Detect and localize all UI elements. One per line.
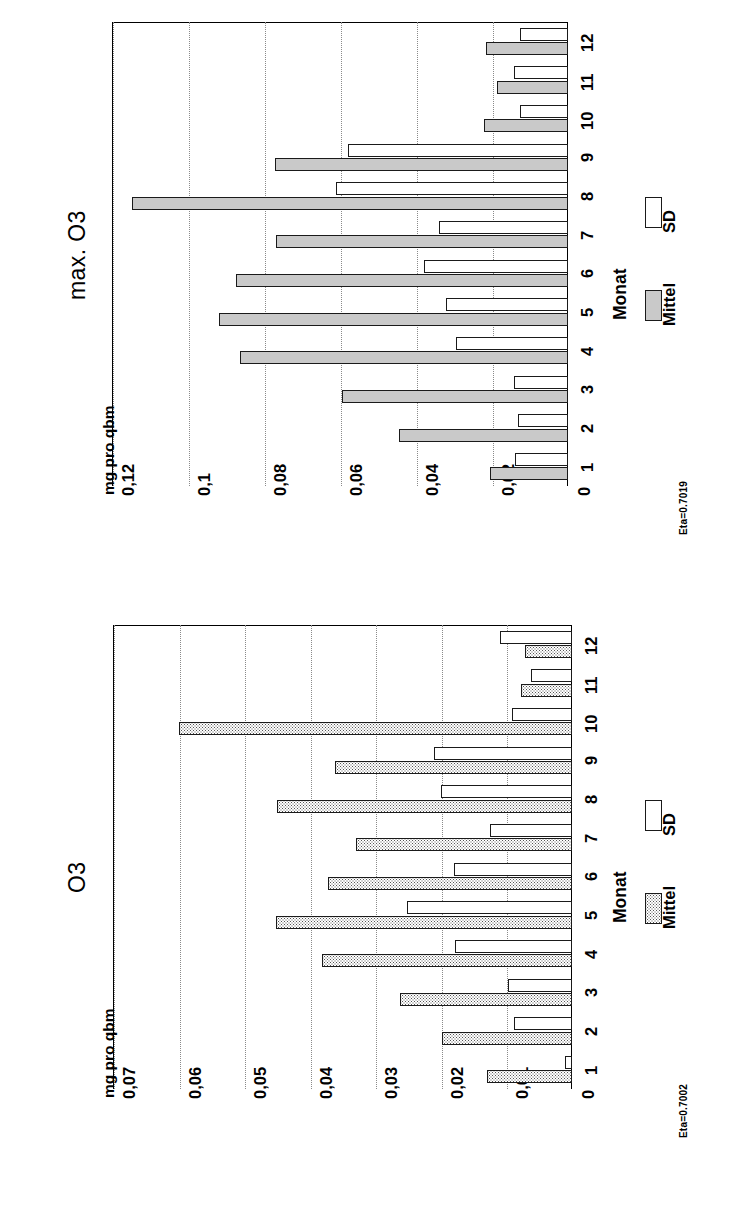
bar-mittel xyxy=(236,274,569,287)
value-axis-tick-label: 0,12 xyxy=(119,464,138,496)
legend-label-sd: SD xyxy=(660,210,679,233)
category-tick-label: 11 xyxy=(578,74,597,91)
bar-sd xyxy=(512,708,572,721)
bar-sd xyxy=(500,631,572,644)
value-axis-tick-label: 0,04 xyxy=(317,1067,336,1099)
gridline xyxy=(311,625,312,1089)
bar-mittel xyxy=(179,722,572,735)
value-axis-tick-label: 0,02 xyxy=(448,1067,467,1099)
bar-sd xyxy=(515,453,568,466)
value-axis-tick-label: 0,03 xyxy=(382,1067,401,1099)
bar-mittel xyxy=(328,877,572,890)
bar-sd xyxy=(439,221,568,234)
bar-mittel xyxy=(240,351,568,364)
bar-mittel xyxy=(442,1032,572,1045)
value-axis-tick-label: 0,06 xyxy=(186,1067,205,1099)
gridline xyxy=(417,22,418,486)
bar-sd xyxy=(531,669,572,682)
eta-value-max-o3: Eta=0.7019 xyxy=(678,481,689,535)
bar-mittel xyxy=(342,390,568,403)
bar-mittel xyxy=(276,235,568,248)
chart-title-max-o3: max. O3 xyxy=(64,210,91,300)
gridline xyxy=(189,22,190,486)
bar-mittel xyxy=(525,645,572,658)
category-tick-label: 8 xyxy=(582,795,601,804)
category-tick-label: 9 xyxy=(582,756,601,765)
gridline xyxy=(180,625,181,1089)
bar-sd xyxy=(348,144,568,157)
category-tick-label: 10 xyxy=(578,111,597,129)
category-tick-label: 12 xyxy=(582,637,601,655)
gridline xyxy=(265,22,266,486)
bar-mittel xyxy=(219,313,568,326)
category-tick-label: 11 xyxy=(582,677,601,694)
bar-sd xyxy=(565,1056,572,1069)
chart-panel-max-o3: max. O3 mg pro qbm Monat Eta=0.7019 0,12… xyxy=(0,0,741,602)
value-axis-tick-label: 0,08 xyxy=(271,464,290,496)
category-tick-label: 5 xyxy=(582,911,601,920)
bar-sd xyxy=(446,298,568,311)
bar-sd xyxy=(434,747,572,760)
bar-mittel xyxy=(490,467,568,480)
bar-sd xyxy=(508,979,572,992)
category-tick-label: 2 xyxy=(582,1027,601,1036)
bar-sd xyxy=(336,182,568,195)
bar-sd xyxy=(520,105,568,118)
bar-mittel xyxy=(399,429,568,442)
bar-sd xyxy=(407,901,572,914)
gridline xyxy=(245,625,246,1089)
bar-mittel xyxy=(484,119,568,132)
value-axis-unit-max-o3: mg pro qbm xyxy=(100,405,118,495)
category-tick-label: 9 xyxy=(578,153,597,162)
category-tick-label: 7 xyxy=(578,230,597,239)
value-axis-tick-label: 0 xyxy=(579,1090,598,1099)
category-axis-label-o3: Monat xyxy=(610,871,631,923)
bar-sd xyxy=(514,66,568,79)
bar-sd xyxy=(456,337,568,350)
category-tick-label: 7 xyxy=(582,833,601,842)
category-tick-label: 10 xyxy=(582,714,601,732)
bar-mittel xyxy=(322,954,572,967)
legend-label-sd: SD xyxy=(660,813,679,836)
bar-sd xyxy=(520,28,568,41)
value-axis-tick-label: 0 xyxy=(575,487,594,496)
bar-mittel xyxy=(276,916,572,929)
bar-mittel xyxy=(356,838,572,851)
eta-value-o3: Eta=0.7002 xyxy=(678,1084,689,1138)
value-axis-unit-o3: mg pro qbm xyxy=(100,1008,118,1098)
category-tick-label: 8 xyxy=(578,192,597,201)
category-tick-label: 2 xyxy=(578,424,597,433)
bar-mittel xyxy=(132,197,568,210)
value-axis-tick-label: 0,07 xyxy=(120,1067,139,1099)
chart-title-o3: O3 xyxy=(64,862,91,893)
bar-sd xyxy=(518,414,568,427)
chart-panel-o3: O3 mg pro qbm Monat Eta=0.7002 0,070,060… xyxy=(0,603,741,1205)
category-tick-label: 3 xyxy=(578,385,597,394)
category-tick-label: 1 xyxy=(578,462,597,471)
bar-sd xyxy=(490,824,572,837)
legend-label-mittel: Mittel xyxy=(660,886,679,929)
bar-sd xyxy=(514,1017,572,1030)
category-tick-label: 1 xyxy=(582,1065,601,1074)
gridline xyxy=(507,625,508,1089)
bar-mittel xyxy=(521,684,572,697)
value-axis-tick-label: 0,06 xyxy=(347,464,366,496)
gridline xyxy=(341,22,342,486)
plot-frame-top xyxy=(114,625,572,626)
bar-mittel xyxy=(335,761,572,774)
bar-mittel xyxy=(275,158,568,171)
plot-area-o3 xyxy=(113,625,572,1089)
bar-mittel xyxy=(487,1070,572,1083)
legend-label-mittel: Mittel xyxy=(660,283,679,326)
category-tick-label: 6 xyxy=(578,269,597,278)
bar-sd xyxy=(514,376,568,389)
bar-mittel xyxy=(400,993,572,1006)
value-axis-tick-label: 0,05 xyxy=(251,1067,270,1099)
gridline xyxy=(376,625,377,1089)
gridline xyxy=(493,22,494,486)
bar-sd xyxy=(441,785,572,798)
category-tick-label: 12 xyxy=(578,34,597,52)
bar-mittel xyxy=(497,81,568,94)
gridline xyxy=(442,625,443,1089)
bar-sd xyxy=(455,940,572,953)
